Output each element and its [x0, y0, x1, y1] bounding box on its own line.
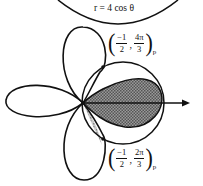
comma: , — [129, 154, 132, 165]
r-fraction: −1 2 — [116, 33, 127, 53]
right-paren: ) — [145, 30, 152, 55]
r-numerator: −1 — [116, 33, 127, 44]
theta-fraction: 2π 3 — [134, 148, 145, 168]
r-denominator: 2 — [120, 159, 124, 169]
point-label-lower: ( −1 2 , 2π 3 ) p — [108, 147, 156, 169]
comma: , — [129, 39, 132, 50]
theta-denominator: 3 — [137, 159, 141, 169]
polar-subscript: p — [153, 48, 157, 56]
r-fraction: −1 2 — [116, 148, 127, 168]
theta-fraction: 4π 3 — [134, 33, 145, 53]
r-denominator: 2 — [120, 44, 124, 54]
right-paren: ) — [145, 145, 152, 170]
left-paren: ( — [108, 145, 115, 170]
theta-denominator: 3 — [137, 44, 141, 54]
left-paren: ( — [108, 30, 115, 55]
theta-numerator: 4π — [134, 33, 145, 44]
intersection-point-upper — [101, 65, 105, 69]
pole-point — [81, 101, 84, 104]
point-label-upper: ( −1 2 , 4π 3 ) p — [108, 32, 156, 54]
polar-subscript: p — [153, 163, 157, 171]
equation-label: r = 4 cos θ — [94, 3, 134, 13]
intersection-point-lower — [101, 137, 105, 141]
polar-diagram — [0, 0, 203, 186]
theta-numerator: 2π — [134, 148, 145, 159]
axis-arrowhead — [182, 100, 190, 107]
r-numerator: −1 — [116, 148, 127, 159]
